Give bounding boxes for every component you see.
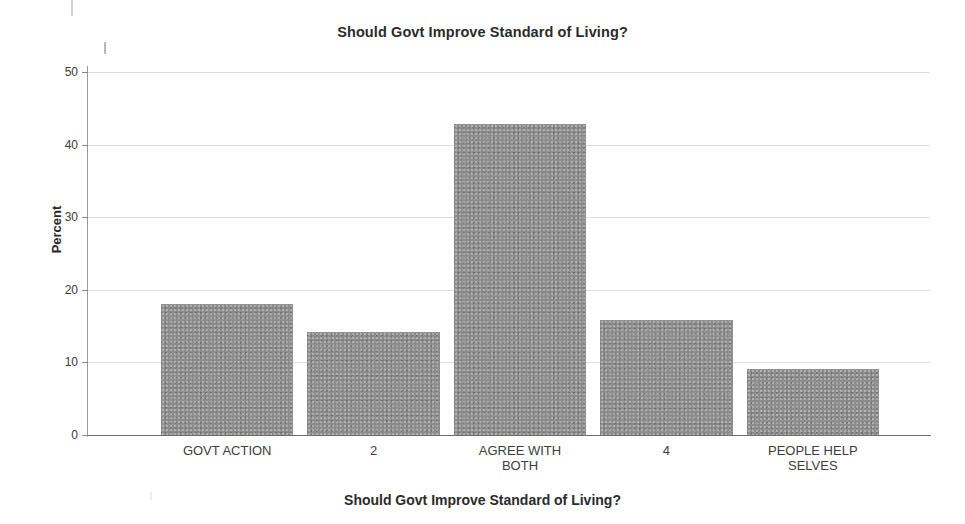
- x-axis-category-label: 4: [593, 443, 739, 458]
- x-axis-category-label: 2: [300, 443, 446, 458]
- x-axis-category-label: AGREE WITH BOTH: [447, 443, 593, 473]
- y-axis-tick-label: 10: [8, 355, 78, 369]
- gridline: [88, 72, 930, 73]
- bar: [454, 124, 586, 435]
- bar: [747, 369, 879, 435]
- y-axis-tick-mark: [82, 145, 88, 146]
- y-axis-tick-label: 20: [8, 283, 78, 297]
- scan-artifact-mark: [104, 42, 106, 54]
- y-axis-tick-mark: [82, 290, 88, 291]
- y-axis-tick-mark: [82, 72, 88, 73]
- y-axis-tick-label: 0: [8, 428, 78, 442]
- x-axis-category-label: GOVT ACTION: [154, 443, 300, 458]
- y-axis-tick-mark: [82, 217, 88, 218]
- x-axis-line: [88, 435, 931, 436]
- y-axis-tick-labels: 01020304050: [0, 0, 78, 524]
- y-axis-tick-mark: [82, 362, 88, 363]
- chart-title: Should Govt Improve Standard of Living?: [0, 24, 965, 40]
- bar: [307, 332, 439, 435]
- y-axis-title: Percent: [49, 170, 64, 290]
- bar-chart-figure: Should Govt Improve Standard of Living? …: [0, 0, 965, 524]
- bar: [161, 304, 293, 435]
- x-axis-title: Should Govt Improve Standard of Living?: [0, 492, 965, 508]
- y-axis-tick-label: 40: [8, 138, 78, 152]
- x-axis-category-labels: GOVT ACTION2AGREE WITH BOTH4PEOPLE HELP …: [88, 443, 930, 487]
- y-axis-tick-label: 50: [8, 65, 78, 79]
- y-axis-tick-label: 30: [8, 210, 78, 224]
- x-axis-category-label: PEOPLE HELP SELVES: [740, 443, 886, 473]
- bar: [600, 320, 732, 435]
- plot-area: [88, 72, 930, 435]
- y-axis-tick-mark: [82, 435, 88, 436]
